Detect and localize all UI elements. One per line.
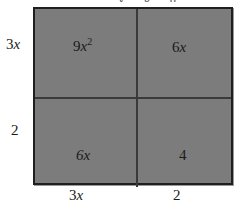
- left-label-top-coef: 3: [6, 36, 14, 52]
- bottom-label-right: 2: [173, 188, 181, 203]
- cell-top-left-exponent: 2: [87, 36, 92, 47]
- cell-bottom-left-coef: 6: [76, 147, 84, 163]
- cropped-top-text: y g p: [0, 0, 241, 2]
- left-label-top-var: x: [14, 36, 21, 52]
- left-label-bottom: 2: [11, 123, 19, 138]
- cell-top-right-label: 6x: [172, 40, 186, 55]
- cell-top-left-label: 9x2: [73, 39, 92, 54]
- bottom-label-left-coef: 3: [69, 187, 77, 203]
- cell-bottom-right-label: 4: [179, 148, 187, 163]
- area-model-square: 9x2 6x 6x 4: [33, 7, 233, 185]
- bottom-label-right-coef: 2: [173, 187, 181, 203]
- left-label-top: 3x: [6, 37, 20, 52]
- cell-bottom-right-coef: 4: [179, 147, 187, 163]
- bottom-label-left: 3x: [69, 188, 83, 203]
- cell-bottom-left-var: x: [84, 147, 91, 163]
- cell-bottom-left-label: 6x: [76, 148, 90, 163]
- left-label-bottom-coef: 2: [11, 122, 19, 138]
- cell-top-right-coef: 6: [172, 39, 180, 55]
- cell-top-left-coef: 9: [73, 38, 81, 54]
- cell-top-right-var: x: [180, 39, 187, 55]
- cropped-top-text-content: y g p: [118, 0, 184, 2]
- horizontal-divider: [35, 97, 231, 99]
- bottom-label-left-var: x: [77, 187, 84, 203]
